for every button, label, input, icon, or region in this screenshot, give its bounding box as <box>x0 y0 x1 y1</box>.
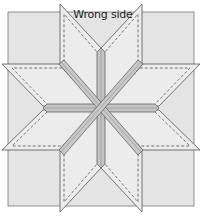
eight-point-star-drawing <box>0 0 202 218</box>
seam-allowances <box>43 48 159 168</box>
wrong-side-label: Wrong side <box>68 8 138 21</box>
